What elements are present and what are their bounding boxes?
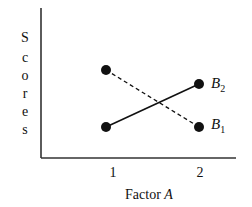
data-point-b1-a1	[101, 65, 111, 75]
y-label-letter: r	[23, 86, 28, 101]
x-tick-label: 2	[197, 165, 204, 180]
data-point-b2-a2	[194, 79, 204, 89]
data-point-b2-a1	[101, 122, 111, 132]
x-axis-title: Factor A	[125, 187, 173, 202]
interaction-plot: S c o r e s B2 B1 1 2 Factor A	[0, 0, 252, 207]
series-line-b1-dashed	[106, 70, 199, 127]
series-line-b2-solid	[106, 84, 199, 127]
series-label-b2: B2	[211, 75, 225, 94]
y-label-letter: e	[22, 104, 28, 119]
y-label-letter: S	[21, 30, 29, 45]
y-label-letter: s	[22, 122, 27, 137]
y-axis-label: S c o r e s	[21, 30, 29, 137]
y-label-letter: c	[22, 50, 28, 65]
x-tick-label: 1	[110, 165, 117, 180]
y-label-letter: o	[22, 68, 29, 83]
data-point-b1-a2	[194, 122, 204, 132]
series-label-b1: B1	[211, 116, 225, 135]
